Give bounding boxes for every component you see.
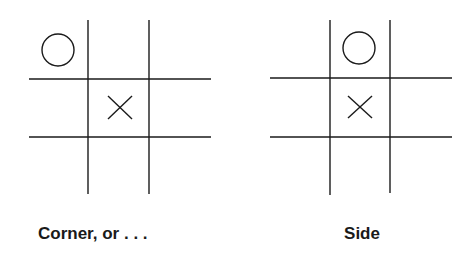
board-side: [270, 20, 452, 195]
caption-side: Side: [320, 224, 404, 244]
o-mark-icon: [343, 32, 375, 64]
x-mark-icon: [348, 96, 372, 118]
caption-corner: Corner, or . . .: [38, 224, 202, 244]
tic-tac-toe-diagram: [0, 0, 474, 255]
x-mark-icon: [108, 96, 132, 119]
board-corner: [29, 20, 211, 194]
o-mark-icon: [42, 34, 74, 66]
